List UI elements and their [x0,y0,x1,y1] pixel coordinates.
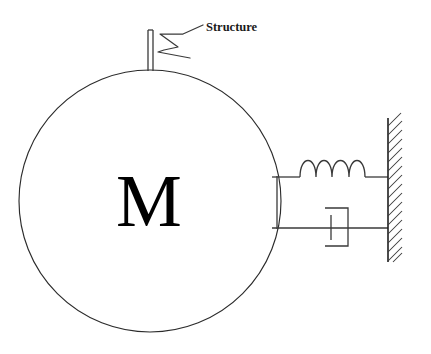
damper-element [272,208,388,246]
diagram-canvas: M Structure [0,0,431,354]
mass-label: M [116,160,182,242]
fixed-wall [388,113,402,262]
spring-element [272,161,388,178]
mass-spring-damper-diagram: M Structure [0,0,431,354]
structure-leader-line [158,25,203,58]
structure-label: Structure [206,20,258,34]
wall-hatching [388,113,402,262]
structure-stem [148,30,153,71]
